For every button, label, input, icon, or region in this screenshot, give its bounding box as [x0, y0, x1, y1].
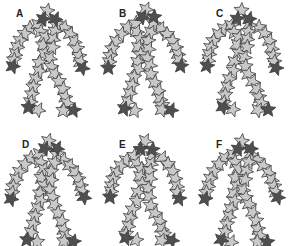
star-figure [97, 0, 194, 123]
panel-a: A [0, 0, 97, 123]
panel-f: F [194, 123, 291, 246]
star-figure [0, 0, 97, 123]
panel-e: E [97, 123, 194, 246]
dark-star-icon [75, 61, 90, 76]
star-figure [97, 123, 194, 246]
panel-c: C [194, 0, 291, 123]
panel-b: B [97, 0, 194, 123]
star-figure [194, 123, 291, 246]
dark-star-icon [198, 191, 213, 206]
panel-d: D [0, 123, 97, 246]
star-figure [194, 0, 291, 123]
light-star-icon [226, 102, 241, 117]
star-figure [0, 123, 97, 246]
